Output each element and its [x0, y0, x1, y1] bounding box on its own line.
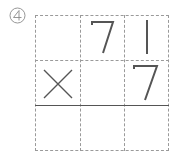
circled-four-icon — [9, 7, 26, 24]
answer-cell[interactable] — [80, 105, 124, 150]
digit-seven — [124, 60, 168, 105]
answer-cell[interactable] — [124, 105, 168, 150]
problem-number — [9, 7, 26, 24]
digit-seven — [80, 15, 124, 60]
multiplication-grid — [35, 15, 169, 151]
answer-cell[interactable] — [35, 105, 80, 150]
multiply-sign — [35, 60, 80, 105]
grid-border-bottom — [35, 150, 169, 151]
digit-one — [124, 15, 168, 60]
grid-border-right — [168, 15, 169, 151]
